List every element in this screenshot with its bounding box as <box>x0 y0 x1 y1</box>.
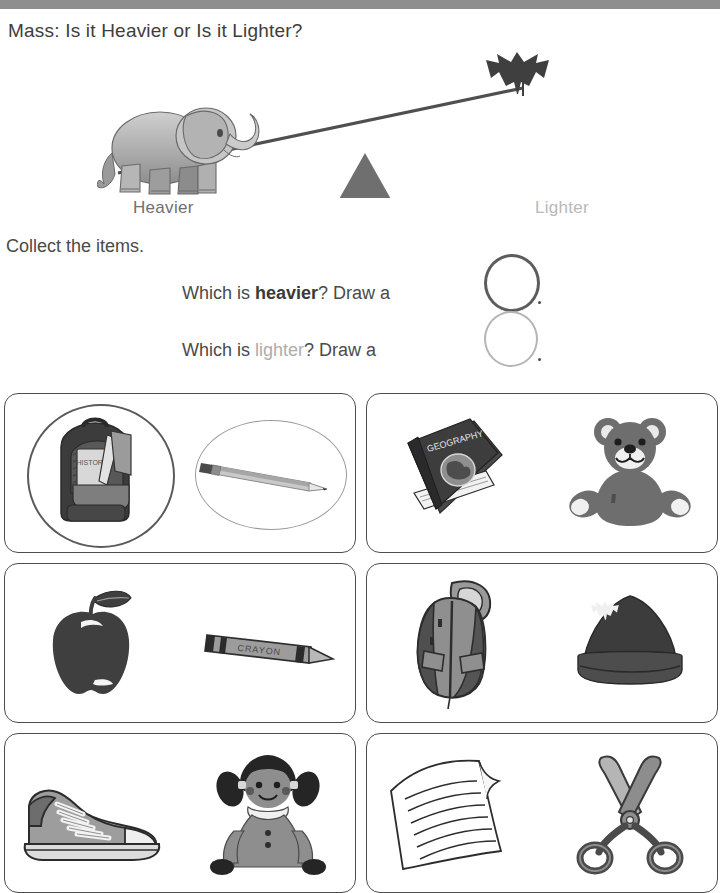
instruction-heavier-suffix: ? Draw a <box>318 283 390 303</box>
balance-label-heavier: Heavier <box>133 198 194 218</box>
item-box-2[interactable]: GEOGRAPHY <box>366 393 718 553</box>
item-winter-hat[interactable] <box>542 564 717 722</box>
top-header-bar <box>0 0 720 9</box>
item-sheet-of-paper[interactable] <box>367 734 542 892</box>
keyword-heavier: heavier <box>255 283 318 303</box>
elephant-illustration <box>97 108 258 194</box>
item-apple[interactable] <box>5 564 180 722</box>
instruction-heavier-prefix: Which is <box>182 283 255 303</box>
keyword-lighter: lighter <box>255 340 304 360</box>
instruction-lighter: Which is lighter? Draw a <box>182 340 376 361</box>
item-box-1[interactable]: HISTORY <box>4 393 356 553</box>
instruction-heavier: Which is heavier? Draw a <box>182 283 390 304</box>
page-title: Mass: Is it Heavier or Is it Lighter? <box>8 20 303 42</box>
heavier-sentence-period <box>538 301 541 304</box>
balance-illustration <box>0 48 720 198</box>
balance-label-lighter: Lighter <box>535 198 589 218</box>
item-doll[interactable] <box>180 734 355 892</box>
item-box-3[interactable]: CRAYON <box>4 563 356 723</box>
item-box-4[interactable] <box>366 563 718 723</box>
fulcrum-triangle <box>320 153 410 198</box>
item-teddy-bear[interactable] <box>542 394 717 552</box>
item-scissors[interactable] <box>542 734 717 892</box>
item-box-6[interactable] <box>366 733 718 893</box>
lighter-example-circle <box>484 311 538 367</box>
item-crayon[interactable]: CRAYON <box>180 564 355 722</box>
instruction-lighter-suffix: ? Draw a <box>304 340 376 360</box>
item-box-5[interactable] <box>4 733 356 893</box>
item-sneaker[interactable] <box>5 734 180 892</box>
heavier-example-circle <box>484 254 540 312</box>
item-pencil[interactable] <box>180 394 355 552</box>
item-backpack[interactable]: HISTORY <box>5 394 180 552</box>
item-jacket[interactable] <box>367 564 542 722</box>
item-geography-book[interactable]: GEOGRAPHY <box>367 394 542 552</box>
instruction-collect: Collect the items. <box>6 236 144 257</box>
item-box-grid: HISTORY <box>4 393 718 893</box>
lighter-sentence-period <box>538 358 541 361</box>
maple-leaf-illustration <box>486 52 549 96</box>
instruction-lighter-prefix: Which is <box>182 340 255 360</box>
